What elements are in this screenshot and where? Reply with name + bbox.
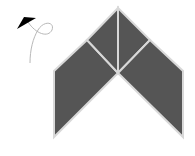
drawing-canvas	[0, 0, 195, 156]
turtle-arrow-icon	[17, 17, 36, 29]
chevron-shape	[54, 8, 183, 137]
turtle-trail	[28, 22, 53, 63]
